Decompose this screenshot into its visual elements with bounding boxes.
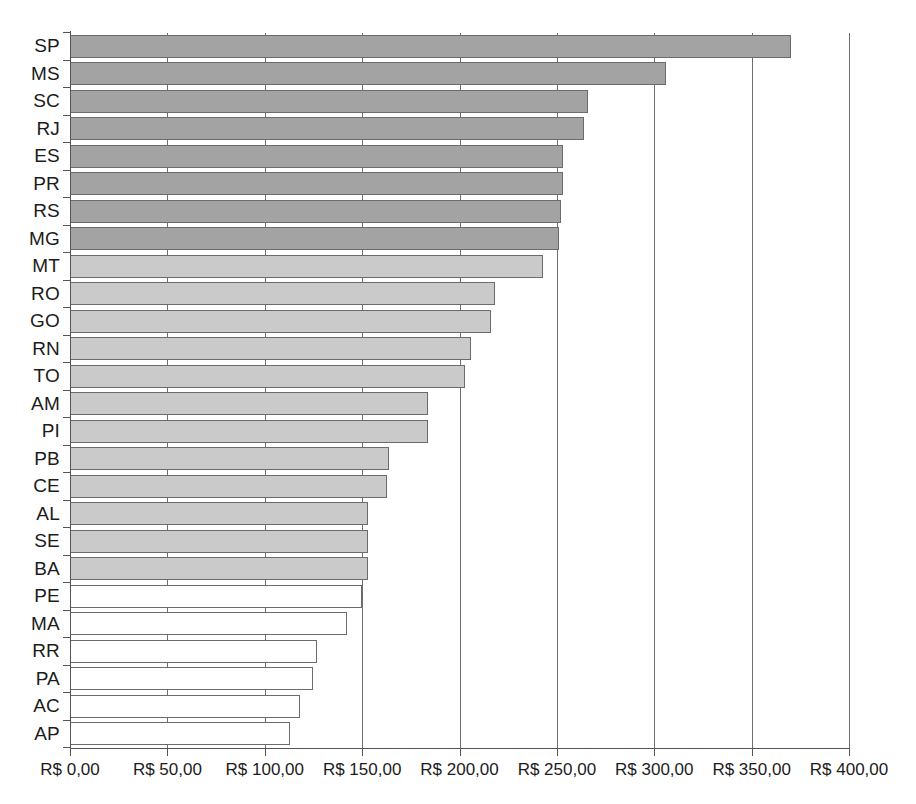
- bar-sp[interactable]: [70, 35, 791, 58]
- bar-row: [70, 638, 849, 666]
- y-axis-label-ap: AP: [8, 724, 60, 743]
- bar-rr[interactable]: [70, 640, 317, 663]
- bar-rn[interactable]: [70, 337, 471, 360]
- bar-row: [70, 198, 849, 226]
- y-axis-label-mt: MT: [8, 256, 60, 275]
- bar-mg[interactable]: [70, 227, 559, 250]
- plot-area: [70, 33, 849, 748]
- x-axis-label-100: R$ 100,00: [217, 760, 313, 780]
- y-axis-label-mg: MG: [8, 229, 60, 248]
- bar-al[interactable]: [70, 502, 368, 525]
- y-axis-label-rn: RN: [8, 339, 60, 358]
- y-axis-tick: [63, 197, 70, 198]
- y-axis-label-pr: PR: [8, 174, 60, 193]
- x-axis-tick-0: [70, 748, 71, 756]
- bar-sc[interactable]: [70, 90, 588, 113]
- y-axis-tick: [63, 170, 70, 171]
- x-axis-tick-200: [460, 748, 461, 756]
- y-axis-label-ba: BA: [8, 559, 60, 578]
- y-axis-label-go: GO: [8, 311, 60, 330]
- bar-row: [70, 281, 849, 309]
- x-axis-label-250: R$ 250,00: [509, 760, 605, 780]
- bar-row: [70, 363, 849, 391]
- y-axis-tick: [63, 280, 70, 281]
- y-axis-label-am: AM: [8, 394, 60, 413]
- y-axis-label-pi: PI: [8, 421, 60, 440]
- bar-row: [70, 501, 849, 529]
- bar-pi[interactable]: [70, 420, 428, 443]
- y-axis-tick: [63, 417, 70, 418]
- y-axis-tick: [63, 610, 70, 611]
- y-axis-tick: [63, 225, 70, 226]
- bar-ce[interactable]: [70, 475, 387, 498]
- bar-row: [70, 473, 849, 501]
- y-axis-tick: [63, 582, 70, 583]
- x-axis-tick-400: [849, 748, 850, 756]
- x-axis-label-200: R$ 200,00: [412, 760, 508, 780]
- bar-ac[interactable]: [70, 695, 300, 718]
- bar-rows: [70, 33, 849, 748]
- y-axis-tick: [63, 747, 70, 748]
- y-axis-tick: [63, 252, 70, 253]
- y-axis-label-rr: RR: [8, 641, 60, 660]
- x-axis-tick-350: [752, 748, 753, 756]
- bar-row: [70, 143, 849, 171]
- bar-row: [70, 556, 849, 584]
- bar-row: [70, 308, 849, 336]
- bar-se[interactable]: [70, 530, 368, 553]
- bar-chart: SPMSSCRJESPRRSMGMTROGORNTOAMPIPBCEALSEBA…: [0, 0, 916, 804]
- y-axis-line: [70, 31, 71, 751]
- bar-pa[interactable]: [70, 667, 313, 690]
- bar-pb[interactable]: [70, 447, 389, 470]
- y-axis-label-ro: RO: [8, 284, 60, 303]
- bar-pe[interactable]: [70, 585, 362, 608]
- bar-row: [70, 418, 849, 446]
- y-axis-tick: [63, 32, 70, 33]
- bar-row: [70, 693, 849, 721]
- bar-ro[interactable]: [70, 282, 495, 305]
- y-axis-tick: [63, 500, 70, 501]
- y-axis-tick: [63, 390, 70, 391]
- bar-am[interactable]: [70, 392, 428, 415]
- bar-row: [70, 583, 849, 611]
- x-axis-label-0: R$ 0,00: [22, 760, 118, 780]
- y-axis-tick: [63, 692, 70, 693]
- bar-ap[interactable]: [70, 722, 290, 745]
- bar-row: [70, 226, 849, 254]
- bar-row: [70, 666, 849, 694]
- y-axis-tick: [63, 720, 70, 721]
- bar-row: [70, 61, 849, 89]
- y-axis-labels: SPMSSCRJESPRRSMGMTROGORNTOAMPIPBCEALSEBA…: [0, 0, 60, 804]
- bar-row: [70, 116, 849, 144]
- bar-es[interactable]: [70, 145, 563, 168]
- y-axis-label-ma: MA: [8, 614, 60, 633]
- y-axis-label-rj: RJ: [8, 119, 60, 138]
- x-axis-label-350: R$ 350,00: [704, 760, 800, 780]
- y-axis-label-al: AL: [8, 504, 60, 523]
- bar-row: [70, 611, 849, 639]
- y-axis-tick: [63, 637, 70, 638]
- y-axis-tick: [63, 555, 70, 556]
- y-axis-label-es: ES: [8, 146, 60, 165]
- bar-ms[interactable]: [70, 62, 666, 85]
- x-axis-label-300: R$ 300,00: [606, 760, 702, 780]
- y-axis-tick: [63, 142, 70, 143]
- x-axis-tick-150: [362, 748, 363, 756]
- x-axis-label-50: R$ 50,00: [119, 760, 215, 780]
- y-axis-tick: [63, 362, 70, 363]
- y-axis-label-pa: PA: [8, 669, 60, 688]
- y-axis-label-sp: SP: [8, 36, 60, 55]
- bar-mt[interactable]: [70, 255, 543, 278]
- y-axis-label-pb: PB: [8, 449, 60, 468]
- x-axis-tick-250: [557, 748, 558, 756]
- bar-go[interactable]: [70, 310, 491, 333]
- bar-row: [70, 391, 849, 419]
- bar-ma[interactable]: [70, 612, 347, 635]
- bar-ba[interactable]: [70, 557, 368, 580]
- bar-pr[interactable]: [70, 172, 563, 195]
- bar-rs[interactable]: [70, 200, 561, 223]
- x-axis-tick-50: [167, 748, 168, 756]
- bar-to[interactable]: [70, 365, 465, 388]
- bar-row: [70, 171, 849, 199]
- bar-rj[interactable]: [70, 117, 584, 140]
